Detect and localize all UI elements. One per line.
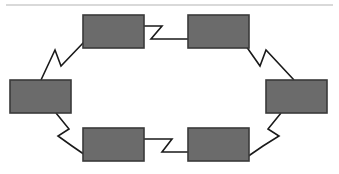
node-left-shape[interactable] bbox=[10, 80, 71, 113]
node-right-shape[interactable] bbox=[266, 80, 327, 113]
ring-diagram bbox=[0, 0, 339, 174]
node-top-left-shape[interactable] bbox=[83, 15, 144, 48]
node-bottom-right-shape[interactable] bbox=[188, 128, 249, 161]
node-top-right-shape[interactable] bbox=[188, 15, 249, 48]
node-right[interactable] bbox=[266, 80, 327, 113]
diagram-canvas bbox=[0, 0, 339, 174]
node-left[interactable] bbox=[10, 80, 71, 113]
node-top-right[interactable] bbox=[188, 15, 249, 48]
node-bottom-right[interactable] bbox=[188, 128, 249, 161]
node-top-left[interactable] bbox=[83, 15, 144, 48]
node-bottom-left[interactable] bbox=[83, 128, 144, 161]
node-bottom-left-shape[interactable] bbox=[83, 128, 144, 161]
